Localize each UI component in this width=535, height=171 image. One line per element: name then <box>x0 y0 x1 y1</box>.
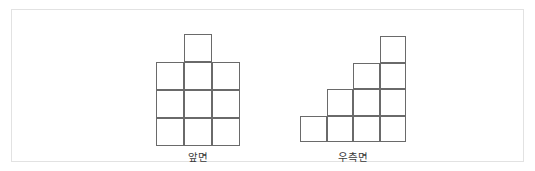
front-view-shape <box>145 34 251 142</box>
grid-square <box>184 62 212 90</box>
figure-right-side-view: 우측면 <box>289 34 417 164</box>
grid-square <box>327 116 354 143</box>
grid-square <box>300 116 327 143</box>
front-view-label: 앞면 <box>145 152 251 163</box>
grid-square <box>156 62 184 90</box>
grid-square <box>353 63 380 90</box>
grid-square <box>184 34 212 62</box>
grid-square <box>353 116 380 143</box>
grid-square <box>327 89 354 116</box>
grid-square <box>184 90 212 118</box>
grid-square <box>380 36 407 63</box>
grid-square <box>212 90 240 118</box>
grid-square <box>184 118 212 146</box>
grid-square <box>353 89 380 116</box>
grid-square <box>212 118 240 146</box>
grid-square <box>156 118 184 146</box>
right-side-view-label: 우측면 <box>289 152 417 163</box>
grid-square <box>380 89 407 116</box>
grid-square <box>156 90 184 118</box>
figure-panel: 앞면 우측면 <box>11 9 524 162</box>
figure-front-view: 앞면 <box>145 34 251 164</box>
right-side-view-shape <box>289 34 417 142</box>
grid-square <box>380 63 407 90</box>
grid-square <box>380 116 407 143</box>
grid-square <box>212 62 240 90</box>
